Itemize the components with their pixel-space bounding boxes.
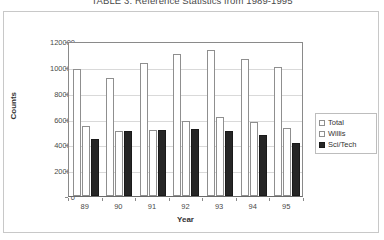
legend-item-total[interactable]: Total xyxy=(319,117,373,128)
bar-total xyxy=(140,63,148,196)
legend-label: Total xyxy=(328,118,344,127)
bar-willis xyxy=(82,126,90,196)
x-tick-label: 92 xyxy=(181,202,189,211)
x-tick-label: 95 xyxy=(282,202,290,211)
bar-total xyxy=(106,78,114,196)
bar-total xyxy=(207,50,215,196)
x-tick-mark xyxy=(303,198,304,201)
legend-swatch-icon xyxy=(319,120,325,126)
bar-scitech xyxy=(191,129,199,196)
chart-legend: TotalWillisSci/Tech xyxy=(315,113,377,154)
bar-willis xyxy=(216,117,224,196)
bar-total xyxy=(274,67,282,196)
x-tick-mark xyxy=(135,198,136,201)
legend-item-willis[interactable]: Willis xyxy=(319,128,373,139)
legend-item-scitech[interactable]: Sci/Tech xyxy=(319,139,373,150)
x-tick-mark xyxy=(236,198,237,201)
bar-group xyxy=(136,43,170,196)
legend-label: Sci/Tech xyxy=(328,140,356,149)
bar-scitech xyxy=(124,131,132,196)
plot-area xyxy=(68,42,303,197)
bar-willis xyxy=(182,121,190,196)
bar-scitech xyxy=(292,143,300,196)
bar-total xyxy=(173,54,181,196)
x-tick-mark xyxy=(102,198,103,201)
bar-group xyxy=(170,43,204,196)
x-tick-mark xyxy=(202,198,203,201)
bar-scitech xyxy=(225,131,233,196)
bar-willis xyxy=(283,128,291,196)
bar-scitech xyxy=(158,130,166,196)
x-tick-label: 94 xyxy=(248,202,256,211)
x-tick-label: 89 xyxy=(81,202,89,211)
bars-layer xyxy=(69,43,302,196)
bar-willis xyxy=(149,130,157,196)
bar-group xyxy=(203,43,237,196)
y-axis-title: Counts xyxy=(9,106,18,120)
bar-total xyxy=(241,59,249,196)
bar-group xyxy=(103,43,137,196)
bar-willis xyxy=(115,131,123,196)
x-tick-mark xyxy=(269,198,270,201)
x-tick-label: 90 xyxy=(114,202,122,211)
bar-group xyxy=(270,43,304,196)
bar-willis xyxy=(250,122,258,196)
bar-scitech xyxy=(91,139,99,196)
x-tick-label: 93 xyxy=(215,202,223,211)
bar-group xyxy=(69,43,103,196)
figure-title: TABLE 3. Reference Statistics from 1989-… xyxy=(0,0,384,6)
x-tick-label: 91 xyxy=(148,202,156,211)
x-tick-mark xyxy=(68,198,69,201)
bar-group xyxy=(237,43,271,196)
x-tick-mark xyxy=(169,198,170,201)
bar-total xyxy=(73,69,81,196)
legend-label: Willis xyxy=(328,129,346,138)
x-axis-title: Year xyxy=(68,215,303,224)
legend-swatch-icon xyxy=(319,142,325,148)
bar-scitech xyxy=(259,135,267,196)
legend-swatch-icon xyxy=(319,131,325,137)
chart-frame: Counts 020000400006000080000100000120000… xyxy=(3,11,379,233)
